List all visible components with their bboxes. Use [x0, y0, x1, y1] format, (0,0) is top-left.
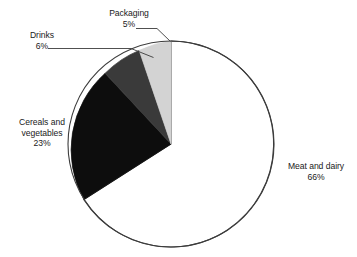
pie-label-packaging-percent: 5% [86, 19, 172, 30]
pie-label-cereals-name-line2: vegetables [4, 128, 80, 139]
pie-label-cereals-percent: 23% [4, 138, 80, 149]
pie-chart: Packaging 5% Drinks 6% Cereals and veget… [0, 0, 357, 257]
pie-label-packaging-name: Packaging [86, 8, 172, 19]
pie-label-cereals-name-line1: Cereals and [4, 117, 80, 128]
pie-label-drinks-name: Drinks [2, 30, 82, 41]
pie-label-packaging: Packaging 5% [86, 8, 172, 29]
pie-label-drinks: Drinks 6% [2, 30, 82, 51]
pie-label-meat-percent: 66% [276, 172, 356, 183]
pie-label-cereals-and-vegetables: Cereals and vegetables 23% [4, 117, 80, 149]
leader-line-packaging [136, 29, 171, 42]
pie-label-meat-name: Meat and dairy [276, 161, 356, 172]
pie-label-meat-and-dairy: Meat and dairy 66% [276, 161, 356, 182]
pie-label-drinks-percent: 6% [2, 41, 82, 52]
